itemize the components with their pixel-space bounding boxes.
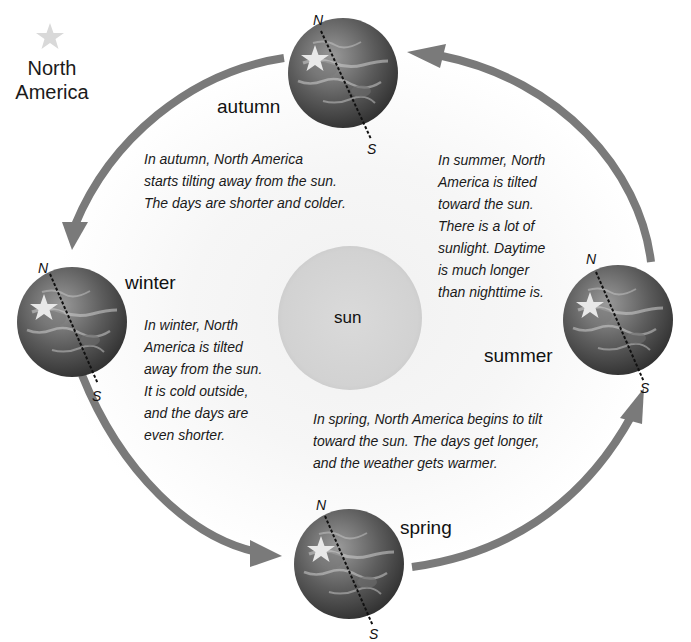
autumn-desc-line: starts tilting away from the sun.	[144, 170, 346, 192]
winter-label: winter	[125, 272, 176, 294]
autumn-desc-line: The days are shorter and colder.	[144, 192, 346, 214]
spring-south-label: S	[369, 626, 378, 642]
summer-label: summer	[484, 345, 553, 367]
summer-desc-line: toward the sun.	[438, 193, 545, 215]
spring-label: spring	[400, 517, 452, 539]
winter-desc-line: away from the sun.	[144, 358, 262, 380]
summer-desc-line: America is tilted	[438, 171, 545, 193]
globe-autumn	[288, 18, 398, 139]
star-icon	[36, 23, 64, 49]
summer-desc-line: sunlight. Daytime	[438, 237, 545, 259]
spring-desc-line: In spring, North America begins to tilt	[313, 408, 542, 430]
autumn-north-label: N	[313, 12, 323, 28]
legend-line-2: America	[14, 80, 90, 104]
globe-winter	[17, 267, 127, 384]
legend-label: North America	[14, 56, 90, 104]
legend-line-1: North	[14, 56, 90, 80]
spring-north-label: N	[316, 497, 326, 513]
globe-summer	[563, 265, 673, 382]
winter-desc-line: It is cold outside,	[144, 380, 262, 402]
winter-south-label: S	[92, 388, 101, 404]
winter-description: In winter, North America is tilted away …	[144, 314, 262, 446]
winter-desc-line: even shorter.	[144, 424, 262, 446]
summer-desc-line: is much longer	[438, 259, 545, 281]
globe-spring	[294, 509, 404, 626]
arrowhead-spring	[250, 540, 282, 567]
autumn-label: autumn	[217, 96, 280, 118]
winter-north-label: N	[38, 260, 48, 276]
autumn-south-label: S	[367, 141, 376, 157]
spring-desc-line: toward the sun. The days get longer,	[313, 430, 542, 452]
autumn-description: In autumn, North America starts tilting …	[144, 148, 346, 214]
summer-desc-line: In summer, North	[438, 149, 545, 171]
spring-description: In spring, North America begins to tilt …	[313, 408, 542, 474]
sun-label: sun	[334, 308, 361, 328]
arrowhead-winter	[62, 222, 88, 250]
spring-desc-line: and the weather gets warmer.	[313, 452, 542, 474]
winter-desc-line: In winter, North	[144, 314, 262, 336]
summer-desc-line: There is a lot of	[438, 215, 545, 237]
summer-north-label: N	[586, 251, 596, 267]
summer-desc-line: than nighttime is.	[438, 281, 545, 303]
winter-desc-line: and the days are	[144, 402, 262, 424]
summer-description: In summer, North America is tilted towar…	[438, 149, 545, 303]
summer-south-label: S	[640, 380, 649, 396]
arrowhead-autumn	[407, 44, 446, 68]
winter-desc-line: America is tilted	[144, 336, 262, 358]
autumn-desc-line: In autumn, North America	[144, 148, 346, 170]
